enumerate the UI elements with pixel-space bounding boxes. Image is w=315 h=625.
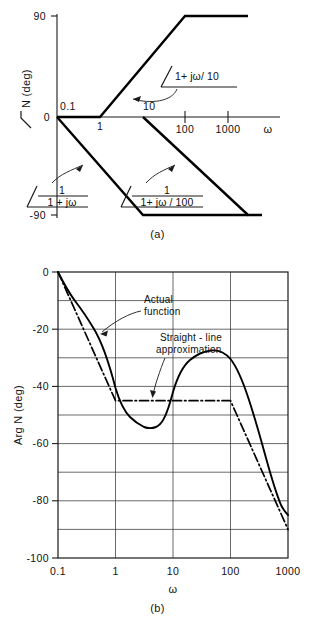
figure-container: 90 0 -90 0.1 1 10 100 1000 ω N (deg) 1+ … bbox=[0, 0, 315, 625]
chart-a-y-axis-title: N (deg) bbox=[20, 69, 32, 128]
chart-b-xlabel-1: 1 bbox=[112, 565, 118, 577]
annotation-pole-1-numerator: 1 bbox=[59, 184, 65, 196]
chart-b-xlabel-0p1: 0.1 bbox=[50, 565, 66, 577]
caption-b: (b) bbox=[0, 602, 315, 614]
chart-b-ylabel-neg20: -20 bbox=[33, 323, 49, 335]
chart-a-xlabel-1000: 1000 bbox=[216, 123, 241, 135]
annotation-actual-function-arrowhead bbox=[100, 331, 108, 337]
chart-a-x-axis-title: ω bbox=[264, 123, 273, 135]
annotation-zero-term-arrowhead bbox=[133, 96, 141, 102]
chart-b-xlabel-10: 10 bbox=[167, 565, 179, 577]
annotation-pole-1-denominator: 1 + jω bbox=[48, 196, 77, 208]
chart-b-xlabel-100: 100 bbox=[221, 565, 240, 577]
annotation-approx-line2: approximation bbox=[156, 344, 221, 355]
chart-a-phase-asymptotes: 90 0 -90 0.1 1 10 100 1000 ω N (deg) 1+ … bbox=[0, 0, 315, 228]
annotation-pole-100-denominator: 1+ jω / 100 bbox=[141, 196, 194, 208]
annotation-approx-line1: Straight - line bbox=[160, 332, 222, 343]
annotation-pole-100-arrowhead bbox=[168, 165, 175, 172]
chart-b-y-ticks bbox=[52, 272, 58, 558]
annotation-pole-100: 1 1+ jω / 100 bbox=[121, 165, 203, 208]
chart-b-ylabel-neg40: -40 bbox=[33, 380, 49, 392]
chart-b-xlabel-1000: 1000 bbox=[276, 565, 301, 577]
chart-b-y-axis-title: Arg N (deg) bbox=[12, 385, 24, 445]
chart-b-ylabel-neg60: -60 bbox=[33, 437, 49, 449]
chart-a-ylabel-0: 0 bbox=[44, 111, 50, 123]
annotation-actual-function-line2: function bbox=[144, 306, 181, 317]
annotation-pole-1-arrowhead bbox=[76, 165, 83, 172]
chart-a-xlabel-0p1: 0.1 bbox=[60, 100, 76, 112]
chart-b-ylabel-neg100: -100 bbox=[26, 552, 49, 564]
chart-a-ylabel-neg90: -90 bbox=[30, 209, 46, 221]
annotation-zero-term-text: 1+ jω/ 10 bbox=[175, 70, 219, 82]
chart-b-ylabel-0: 0 bbox=[43, 266, 49, 278]
annotation-approx-arrowhead bbox=[150, 390, 156, 398]
annotation-pole-100-numerator: 1 bbox=[164, 184, 170, 196]
chart-b-ylabel-neg80: -80 bbox=[33, 494, 49, 506]
chart-b-total-phase: 0 -20 -40 -60 -80 -100 0.1 1 10 100 1000… bbox=[0, 255, 315, 595]
chart-b-x-axis-title: ω bbox=[169, 583, 178, 595]
annotation-actual-function-line1: Actual bbox=[144, 294, 173, 305]
chart-a-xlabel-100: 100 bbox=[176, 123, 195, 135]
chart-a-ylabel-90: 90 bbox=[34, 10, 46, 22]
caption-a: (a) bbox=[0, 228, 315, 240]
annotation-zero-term: 1+ jω/ 10 bbox=[133, 66, 237, 102]
chart-a-xlabel-1: 1 bbox=[97, 120, 103, 132]
chart-a-y-axis-title-text: N (deg) bbox=[20, 69, 32, 108]
